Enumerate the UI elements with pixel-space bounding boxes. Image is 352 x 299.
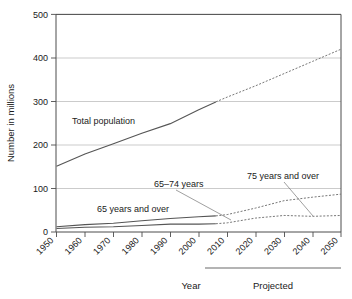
x-tick-2000: 2000 (177, 235, 198, 256)
annotation-65-and-over: 65 years and over (97, 204, 169, 214)
x-tick-1980: 1980 (120, 235, 141, 256)
series-65-years-and-over-projected (216, 194, 341, 216)
x-tick-2050: 2050 (319, 235, 340, 256)
population-line-chart: 500 400 300 200 100 0 Number in millions… (0, 0, 352, 299)
data-series-layer (57, 49, 342, 228)
y-tick-400: 400 (33, 53, 48, 63)
annotation-total-population: Total population (72, 116, 135, 126)
annotation-75-and-over: 75 years and over (247, 171, 319, 181)
series-total-population-actual (57, 102, 216, 166)
y-tick-100: 100 (33, 184, 48, 194)
x-tick-2030: 2030 (262, 235, 283, 256)
x-tick-1950: 1950 (34, 235, 55, 256)
chart-canvas: 500 400 300 200 100 0 Number in millions… (0, 0, 352, 299)
y-axis-title: Number in millions (5, 84, 16, 162)
x-axis-tick-labels: 1950 1960 1970 1980 1990 2000 2010 2020 … (34, 235, 340, 256)
y-tick-200: 200 (33, 140, 48, 150)
y-axis-tick-labels: 500 400 300 200 100 0 (33, 10, 48, 238)
x-axis-ticks (57, 232, 342, 237)
y-tick-300: 300 (33, 97, 48, 107)
x-axis-title: Year (181, 280, 200, 291)
x-tick-2010: 2010 (205, 235, 226, 256)
y-axis-ticks (51, 14, 56, 232)
series-65-years-and-over-actual (57, 216, 216, 227)
x-tick-1990: 1990 (148, 235, 169, 256)
gridlines (56, 14, 341, 188)
x-tick-1960: 1960 (63, 235, 84, 256)
projected-label: Projected (253, 280, 293, 291)
series-total-population-projected (216, 49, 341, 102)
series-65-74-years-projected (216, 215, 341, 223)
x-tick-1970: 1970 (91, 235, 112, 256)
x-tick-2040: 2040 (291, 235, 312, 256)
x-tick-2020: 2020 (234, 235, 255, 256)
annotation-65-74-years: 65–74 years (154, 179, 204, 189)
y-tick-500: 500 (33, 10, 48, 20)
